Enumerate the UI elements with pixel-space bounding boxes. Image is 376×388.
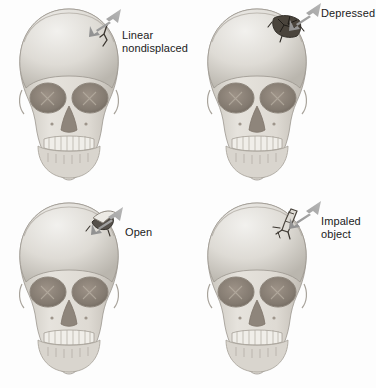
skull-illustration xyxy=(8,6,130,188)
skull-illustration xyxy=(8,200,130,382)
panel-linear-nondisplaced: Linear nondisplaced xyxy=(0,0,188,194)
skull-illustration xyxy=(196,200,318,382)
panel-depressed: Depressed xyxy=(188,0,376,194)
panel-label: Impaled object xyxy=(321,215,361,240)
panel-impaled-object: Impaled object xyxy=(188,194,376,388)
skull-fracture-figure: Linear nondisplaced xyxy=(0,0,376,388)
skull-illustration xyxy=(196,6,318,188)
panel-label: Linear nondisplaced xyxy=(122,29,188,54)
panel-open: Open xyxy=(0,194,188,388)
panel-label: Open xyxy=(125,226,152,239)
panel-label: Depressed xyxy=(321,7,375,20)
